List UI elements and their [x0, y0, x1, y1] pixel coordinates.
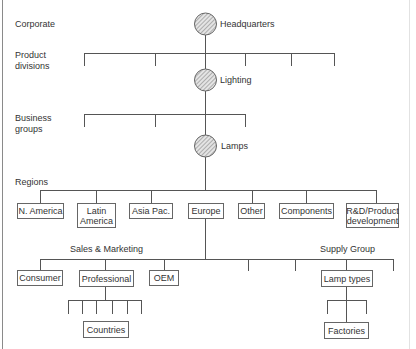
- level-label-business-groups: Business groups: [15, 113, 52, 135]
- headquarters-label: Headquarters: [220, 19, 275, 30]
- org-chart-canvas: Corporate Product divisions Business gro…: [0, 0, 416, 349]
- connector-lines: [0, 0, 416, 349]
- region-box-asia-pac: Asia Pac.: [129, 203, 173, 219]
- unit-box-professional: Professional: [79, 270, 134, 287]
- leaf-box-factories: Factories: [324, 322, 369, 339]
- lamps-node-icon: [195, 135, 217, 157]
- lamps-label: Lamps: [221, 141, 248, 152]
- region-box-components: Components: [279, 203, 334, 219]
- leaf-box-countries: Countries: [83, 321, 129, 338]
- sales-marketing-label: Sales & Marketing: [70, 244, 143, 255]
- headquarters-node-icon: [195, 13, 217, 35]
- level-label-product-divisions: Product divisions: [15, 50, 50, 72]
- region-box-n-america: N. America: [17, 203, 64, 219]
- unit-box-consumer: Consumer: [17, 270, 63, 286]
- region-box-rnd-product-development: R&D/Product development: [346, 203, 399, 228]
- region-box-other: Other: [238, 203, 265, 219]
- region-box-europe: Europe: [188, 203, 224, 219]
- region-box-latin-america: Latin America: [77, 203, 116, 228]
- unit-box-lamp-types: Lamp types: [321, 270, 373, 287]
- level-label-corporate: Corporate: [15, 19, 55, 30]
- lighting-node-icon: [195, 69, 217, 91]
- lighting-label: Lighting: [220, 75, 252, 86]
- unit-box-oem: OEM: [149, 270, 179, 286]
- supply-group-label: Supply Group: [320, 244, 375, 255]
- level-label-regions: Regions: [15, 177, 48, 188]
